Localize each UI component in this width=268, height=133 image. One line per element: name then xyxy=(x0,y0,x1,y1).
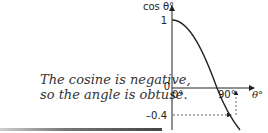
y-tick-1: 1 xyxy=(161,15,167,26)
y-tick-neg: –0.4 xyxy=(146,110,167,121)
cosine-curve xyxy=(172,20,240,130)
x-tick-0: 0° xyxy=(172,89,183,100)
y-tick-0: 0 xyxy=(164,81,170,92)
x-tick-90: 90° xyxy=(218,89,236,100)
x-axis-label: θ° xyxy=(252,89,263,100)
y-axis-label: cos θ° xyxy=(143,1,174,12)
cosine-chart: cos θ° 1 0 –0.4 0° 90° θ° xyxy=(0,0,268,133)
